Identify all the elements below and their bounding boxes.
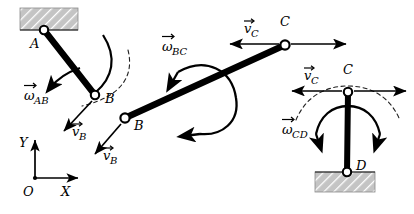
label-point-b-first: B <box>104 91 115 106</box>
label-vb-first: v B <box>72 122 86 142</box>
figure-canvas: A ω AB B v B B v B ω BC v C C v <box>0 0 414 214</box>
joint-a <box>40 26 48 34</box>
label-point-d: D <box>355 158 367 173</box>
label-omega-cd: ω CD <box>282 117 308 140</box>
label-vb-first-sub: B <box>78 131 86 142</box>
omega-bc-arrow <box>170 65 237 136</box>
coordinate-axes <box>33 140 78 180</box>
joint-b-first <box>91 91 99 99</box>
omega-ab-arrow <box>50 35 112 92</box>
link-bc <box>125 45 285 118</box>
label-vb-second-sub: B <box>109 155 117 166</box>
joint-c-first <box>280 40 289 49</box>
joint-c-second <box>344 88 352 96</box>
support-block-a <box>20 8 78 30</box>
label-axis-x: X <box>60 184 71 199</box>
label-omega-bc-sub: BC <box>171 46 188 57</box>
label-point-b-second: B <box>133 118 144 133</box>
joint-d <box>343 168 351 176</box>
label-point-c-first: C <box>280 14 290 29</box>
label-vc-first-sub: C <box>251 28 259 39</box>
link-cd <box>347 92 348 172</box>
joint-b-second <box>120 113 129 122</box>
label-axis-origin: O <box>23 184 34 199</box>
label-vc-first: v C <box>244 19 259 39</box>
label-omega-ab: ω AB <box>24 83 49 106</box>
label-omega-cd-sub: CD <box>292 129 308 140</box>
label-vc-second-sub: C <box>311 75 319 86</box>
label-point-a: A <box>29 36 39 51</box>
label-point-c-second: C <box>343 62 353 77</box>
label-vc-second: v C <box>304 66 319 86</box>
label-omega-bc: ω BC <box>162 34 188 57</box>
label-vb-second: v B <box>103 146 117 166</box>
label-omega-ab-sub: AB <box>33 95 49 106</box>
label-axis-y: Y <box>19 135 29 150</box>
